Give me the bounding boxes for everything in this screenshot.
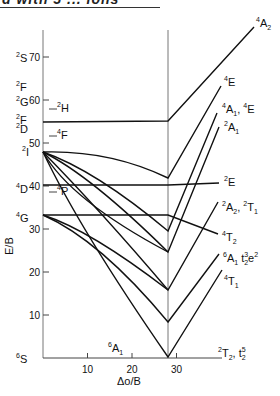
x-tick-label: 30 [171,364,183,375]
state-label: 4A2 [256,16,271,31]
term-label: 2G [16,95,28,108]
y-tick-label: 40 [29,181,41,192]
y-tick-label: 70 [29,52,41,63]
energy-curve [43,113,217,231]
energy-level-curves [43,27,254,357]
state-label: 6A1 t23e2 [223,251,258,266]
term-label: 4G [16,211,28,224]
state-label: 2T2, t25 [218,346,246,361]
term-label: 2H [57,101,69,114]
state-label: 4T1 [224,274,239,289]
state-label: 4T2 [222,230,237,245]
state-label: 2A1 [224,120,239,135]
y-tick-label: 60 [29,95,41,106]
term-label: 4D [16,182,28,195]
tanabe-sugano-diagram: 10203040506070 102030 2S2F2G2H2F2D4F2I4D… [0,0,280,396]
x-axis-label: Δo/B [117,375,141,387]
term-label: 2D [16,122,28,135]
energy-curve [43,152,168,252]
state-label: 2E [224,175,235,188]
energy-curve [43,127,219,252]
term-label: 4P [57,184,68,197]
ground-state-label: 6A1 [108,341,123,356]
energy-curve [43,152,222,357]
y-tick-label: 10 [29,310,41,321]
energy-curve [43,86,221,178]
y-tick-label: 30 [29,224,41,235]
energy-curve [43,215,168,290]
term-label: 6S [16,352,27,365]
y-tick-label: 50 [29,138,41,149]
term-label: 2F [16,80,27,93]
y-ticks: 10203040506070 [29,52,49,321]
term-label: 4F [57,128,68,141]
state-label: 4A1, 4E [222,102,255,117]
y-axis-label: E/B [3,237,15,255]
state-label: 4E [224,75,235,88]
state-label: 2A2, 2T1 [222,200,258,215]
term-label: 2S [16,51,27,64]
x-tick-label: 20 [126,364,138,375]
x-tick-label: 10 [82,364,94,375]
y-tick-label: 20 [29,267,41,278]
strong-field-labels: 4A24E4A1, 4E2A12E2A2, 2T14T26A1 t23e24T1… [218,16,271,361]
term-label: 2I [22,145,29,158]
